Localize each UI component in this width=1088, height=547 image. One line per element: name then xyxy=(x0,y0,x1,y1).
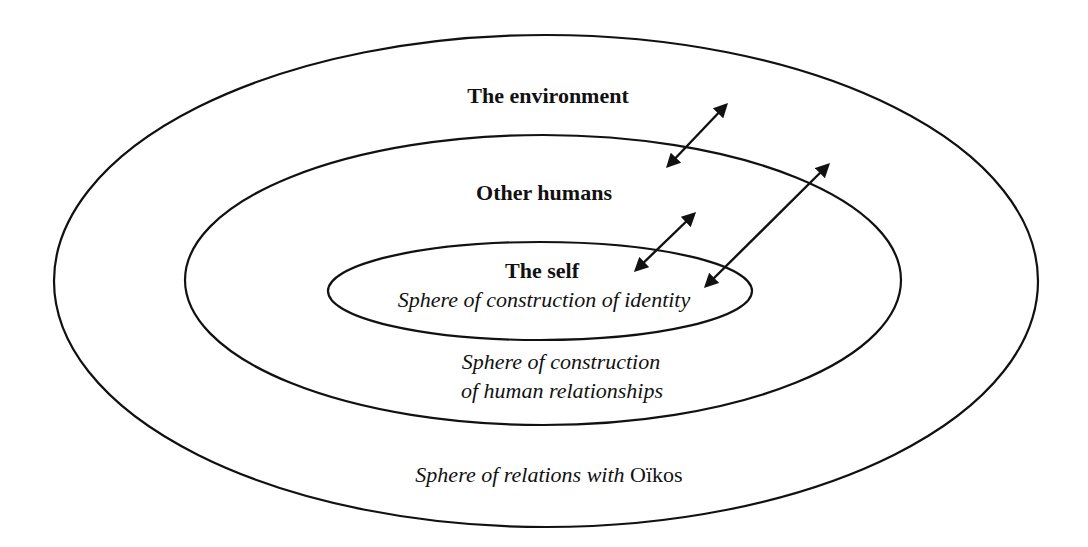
environment-caption-prefix: Sphere of relations with xyxy=(415,462,630,487)
other-humans-title: Other humans xyxy=(476,180,612,205)
environment-caption: Sphere of relations with Oïkos xyxy=(415,462,682,487)
environment-title: The environment xyxy=(467,83,629,108)
oikos-term: Oïkos xyxy=(630,462,683,487)
other-humans-caption-line1: Sphere of construction xyxy=(462,349,660,374)
arrow-humans-environment xyxy=(668,105,726,166)
self-title: The self xyxy=(505,258,579,283)
self-caption: Sphere of construction of identity xyxy=(398,287,690,312)
arrow-self-environment xyxy=(706,165,828,286)
other-humans-caption-line2: of human relationships xyxy=(461,378,663,403)
arrow-self-humans xyxy=(636,214,694,270)
